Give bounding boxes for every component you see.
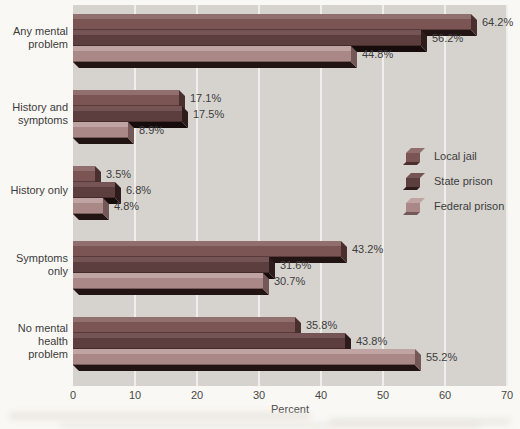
plot-area: 64.2%56.2%44.8%17.1%17.5%8.9%3.5%6.8%4.8… <box>73 5 507 386</box>
value-label: 8.9% <box>139 124 164 136</box>
bar-bottom-face <box>73 62 357 68</box>
x-axis-tick-label: 30 <box>244 389 274 401</box>
category-label: Any mentalproblem <box>2 25 68 51</box>
bar-top-highlight <box>73 333 345 338</box>
category-label: History andsymptoms <box>2 101 68 127</box>
legend-cube-icon <box>402 173 426 190</box>
bar <box>73 333 345 349</box>
bar-top-highlight <box>73 317 295 322</box>
value-label: 64.2% <box>482 16 513 28</box>
cube-front-face <box>406 203 420 212</box>
value-label: 30.7% <box>274 275 305 287</box>
bar <box>73 166 95 182</box>
gridline <box>382 5 384 386</box>
x-axis-tick-label: 40 <box>306 389 336 401</box>
bar-top-highlight <box>73 198 103 203</box>
bar-top-highlight <box>73 349 415 354</box>
scan-artifact <box>330 418 510 425</box>
bar <box>73 317 295 333</box>
bar-bottom-face <box>73 289 269 295</box>
category-label: Symptomsonly <box>2 252 68 278</box>
bar-top-highlight <box>73 90 179 95</box>
bar-top-highlight <box>73 46 351 51</box>
legend-label: Local jail <box>434 150 477 162</box>
bar-bottom-face <box>73 138 134 144</box>
cube-front-face <box>406 178 420 187</box>
category-label: History only <box>2 184 68 197</box>
value-label: 55.2% <box>426 351 457 363</box>
cube-front-face <box>406 153 420 162</box>
legend-cube-icon <box>402 148 426 165</box>
value-label: 43.8% <box>356 335 387 347</box>
value-label: 6.8% <box>126 184 151 196</box>
bar <box>73 182 115 198</box>
value-label: 56.2% <box>432 32 463 44</box>
value-label: 31.6% <box>280 259 311 271</box>
bar <box>73 349 415 365</box>
bar <box>73 14 471 30</box>
chart-root: 64.2%56.2%44.8%17.1%17.5%8.9%3.5%6.8%4.8… <box>0 0 520 429</box>
legend-label: Federal prison <box>434 200 504 212</box>
bar-top-highlight <box>73 166 95 171</box>
bar-top-highlight <box>73 122 128 127</box>
value-label: 17.1% <box>190 92 221 104</box>
bar <box>73 273 263 289</box>
legend-cube-icon <box>402 198 426 215</box>
bar-top-highlight <box>73 30 421 35</box>
cube-bottom-face <box>403 187 420 190</box>
value-label: 44.8% <box>362 48 393 60</box>
x-axis-tick-label: 70 <box>492 389 520 401</box>
value-label: 35.8% <box>306 319 337 331</box>
bar <box>73 122 128 138</box>
legend-label: State prison <box>434 175 493 187</box>
x-axis-tick-label: 20 <box>182 389 212 401</box>
bar-top-highlight <box>73 106 182 111</box>
bar <box>73 198 103 214</box>
scan-artifact <box>60 423 480 428</box>
gridline <box>506 5 508 386</box>
x-axis-tick-label: 0 <box>58 389 88 401</box>
bar-top-highlight <box>73 182 115 187</box>
x-axis-tick-label: 60 <box>430 389 460 401</box>
bar-top-highlight <box>73 14 471 19</box>
bar-top-highlight <box>73 273 263 278</box>
bar <box>73 257 269 273</box>
bar <box>73 241 341 257</box>
gridline <box>444 5 446 386</box>
cube-bottom-face <box>403 212 420 215</box>
cube-bottom-face <box>403 162 420 165</box>
bar-bottom-face <box>73 365 421 371</box>
value-label: 4.8% <box>114 200 139 212</box>
category-label: No mentalhealthproblem <box>2 322 68 361</box>
x-axis-title: Percent <box>250 403 330 415</box>
bar <box>73 46 351 62</box>
x-axis-tick-label: 50 <box>368 389 398 401</box>
value-label: 3.5% <box>106 168 131 180</box>
bar-top-highlight <box>73 241 341 246</box>
bar-top-highlight <box>73 257 269 262</box>
bar <box>73 106 182 122</box>
x-axis-tick-label: 10 <box>120 389 150 401</box>
value-label: 43.2% <box>352 243 383 255</box>
bar <box>73 90 179 106</box>
bar <box>73 30 421 46</box>
value-label: 17.5% <box>193 108 224 120</box>
